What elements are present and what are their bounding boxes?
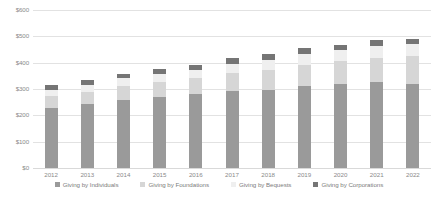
bar-stack[interactable] xyxy=(189,65,202,168)
y-axis-tick-label: $300 xyxy=(0,85,29,92)
legend-item[interactable]: Giving by Corporations xyxy=(313,181,383,188)
bar-segment[interactable] xyxy=(226,64,239,73)
y-axis-tick-label: $600 xyxy=(0,6,29,13)
gridline xyxy=(33,168,431,169)
bar-stack[interactable] xyxy=(81,80,94,168)
legend-label: Giving by Bequests xyxy=(239,181,291,188)
bar-segment[interactable] xyxy=(153,82,166,97)
bar-segment[interactable] xyxy=(262,70,275,90)
bar-segment[interactable] xyxy=(334,50,347,61)
bar-stack[interactable] xyxy=(262,54,275,168)
bar-segment[interactable] xyxy=(153,74,166,82)
bar-segment[interactable] xyxy=(45,96,58,108)
legend-swatch-icon xyxy=(231,182,236,187)
bar-stack[interactable] xyxy=(298,48,311,168)
bar-stack[interactable] xyxy=(370,40,383,168)
y-axis-tick-label: $100 xyxy=(0,138,29,145)
bar-segment[interactable] xyxy=(334,84,347,168)
bar-segment[interactable] xyxy=(298,54,311,65)
y-axis-tick-label: $0 xyxy=(0,164,29,171)
x-axis-tick-label: 2022 xyxy=(399,171,427,178)
bar-segment[interactable] xyxy=(406,84,419,168)
bar-segment[interactable] xyxy=(334,61,347,84)
bar-segment[interactable] xyxy=(45,108,58,168)
legend-item[interactable]: Giving by Foundations xyxy=(140,181,209,188)
bar-segment[interactable] xyxy=(226,73,239,90)
legend-swatch-icon xyxy=(55,182,60,187)
bar-stack[interactable] xyxy=(117,74,130,168)
bar-stack[interactable] xyxy=(45,85,58,168)
bar-segment[interactable] xyxy=(189,78,202,94)
bar-stack[interactable] xyxy=(153,69,166,168)
legend-label: Giving by Corporations xyxy=(321,181,383,188)
bar-segment[interactable] xyxy=(370,46,383,58)
x-axis-tick-label: 2020 xyxy=(327,171,355,178)
bar-segment[interactable] xyxy=(298,65,311,86)
x-axis-tick-label: 2017 xyxy=(218,171,246,178)
x-axis-tick-label: 2014 xyxy=(109,171,137,178)
stacked-bar-chart: $0$100$200$300$400$500$600 2012201320142… xyxy=(0,0,438,200)
bar-segment[interactable] xyxy=(226,91,239,168)
bar-stack[interactable] xyxy=(226,58,239,168)
bar-segment[interactable] xyxy=(81,85,94,92)
bar-segment[interactable] xyxy=(81,92,94,105)
y-axis-tick-label: $400 xyxy=(0,59,29,66)
legend-label: Giving by Individuals xyxy=(63,181,119,188)
bar-segment[interactable] xyxy=(262,90,275,168)
bar-segment[interactable] xyxy=(406,44,419,56)
legend-item[interactable]: Giving by Individuals xyxy=(55,181,119,188)
bar-stack[interactable] xyxy=(334,45,347,168)
bar-segment[interactable] xyxy=(406,56,419,84)
bar-segment[interactable] xyxy=(81,104,94,168)
x-axis-tick-label: 2018 xyxy=(254,171,282,178)
y-axis-tick-label: $200 xyxy=(0,111,29,118)
bar-segment[interactable] xyxy=(189,94,202,168)
y-axis-tick-label: $500 xyxy=(0,32,29,39)
x-axis-tick-label: 2019 xyxy=(290,171,318,178)
bar-segment[interactable] xyxy=(117,78,130,85)
bar-segment[interactable] xyxy=(117,86,130,100)
legend-swatch-icon xyxy=(313,182,318,187)
chart-legend: Giving by IndividualsGiving by Foundatio… xyxy=(0,181,438,188)
bar-segment[interactable] xyxy=(117,100,130,168)
x-axis-tick-label: 2015 xyxy=(146,171,174,178)
bar-segment[interactable] xyxy=(370,82,383,168)
legend-item[interactable]: Giving by Bequests xyxy=(231,181,291,188)
bar-segment[interactable] xyxy=(370,58,383,82)
plot-area: $0$100$200$300$400$500$600 xyxy=(33,10,431,168)
bar-segment[interactable] xyxy=(153,97,166,168)
bar-segment[interactable] xyxy=(298,86,311,168)
legend-label: Giving by Foundations xyxy=(148,181,209,188)
bar-stack[interactable] xyxy=(406,39,419,168)
legend-swatch-icon xyxy=(140,182,145,187)
x-axis-tick-label: 2012 xyxy=(37,171,65,178)
bar-segment[interactable] xyxy=(189,70,202,78)
bar-segment[interactable] xyxy=(262,60,275,70)
x-axis-tick-label: 2021 xyxy=(363,171,391,178)
x-axis-tick-label: 2016 xyxy=(182,171,210,178)
x-axis-tick-label: 2013 xyxy=(73,171,101,178)
bars-layer xyxy=(33,10,431,168)
